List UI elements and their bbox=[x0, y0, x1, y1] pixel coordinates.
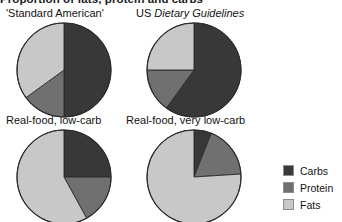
legend-item-carbs: Carbs bbox=[283, 163, 333, 178]
pie-chart-real-food-low-carb bbox=[16, 129, 112, 222]
legend-label-carbs: Carbs bbox=[300, 165, 328, 177]
panel-label-text-italic: Dietary Guidelines bbox=[154, 7, 244, 19]
legend-swatch-fats bbox=[283, 199, 294, 210]
legend: Carbs Protein Fats bbox=[283, 163, 333, 214]
legend-label-fats: Fats bbox=[300, 199, 320, 211]
pie-chart-standard-american bbox=[16, 22, 112, 118]
panel-label-us-dietary-guidelines: US Dietary Guidelines bbox=[136, 7, 244, 19]
legend-swatch-carbs bbox=[283, 165, 294, 176]
legend-item-fats: Fats bbox=[283, 197, 333, 212]
legend-item-protein: Protein bbox=[283, 180, 333, 195]
pie-slice-carbs bbox=[64, 23, 111, 117]
pie-chart-figure: Proportion of fats, protein and carbs 'S… bbox=[0, 0, 342, 222]
pie-slice-carbs bbox=[64, 130, 111, 177]
panel-label-text: 'Standard American' bbox=[6, 7, 104, 19]
pie-chart-us-dietary-guidelines bbox=[146, 22, 242, 118]
pie-slice-fats bbox=[147, 23, 194, 70]
legend-swatch-protein bbox=[283, 182, 294, 193]
pie-chart-real-food-very-low-carb bbox=[146, 129, 242, 222]
legend-label-protein: Protein bbox=[300, 182, 333, 194]
figure-headline: Proportion of fats, protein and carbs bbox=[0, 0, 300, 6]
panel-label-text: US bbox=[136, 7, 154, 19]
panel-label-standard-american: 'Standard American' bbox=[6, 7, 104, 19]
